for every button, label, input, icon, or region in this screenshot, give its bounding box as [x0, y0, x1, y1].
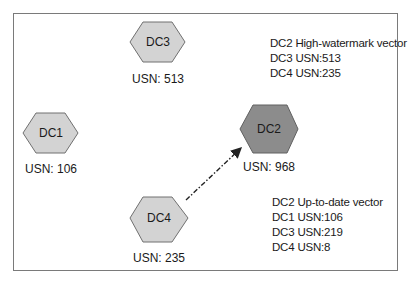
- dc2-usn: USN: 968: [239, 160, 299, 174]
- dc3-label: DC3: [128, 35, 188, 49]
- up-to-date-entry: DC3 USN:219: [272, 225, 383, 240]
- replication-arrow: [186, 149, 240, 200]
- high-watermark-vector: DC2 High-watermark vector DC3 USN:513 DC…: [270, 36, 407, 81]
- up-to-date-entry: DC1 USN:106: [272, 210, 383, 225]
- dc1-usn: USN: 106: [21, 162, 81, 176]
- up-to-date-entry: DC4 USN:8: [272, 240, 383, 255]
- dc2-label: DC2: [239, 122, 299, 136]
- up-to-date-title: DC2 Up-to-date vector: [272, 195, 383, 210]
- high-watermark-entry: DC4 USN:235: [270, 66, 407, 81]
- up-to-date-vector: DC2 Up-to-date vector DC1 USN:106 DC3 US…: [272, 195, 383, 255]
- high-watermark-title: DC2 High-watermark vector: [270, 36, 407, 51]
- dc4-usn: USN: 235: [129, 251, 189, 265]
- dc4-label: DC4: [129, 211, 189, 225]
- dc3-usn: USN: 513: [128, 72, 188, 86]
- dc1-label: DC1: [21, 126, 81, 140]
- high-watermark-entry: DC3 USN:513: [270, 51, 407, 66]
